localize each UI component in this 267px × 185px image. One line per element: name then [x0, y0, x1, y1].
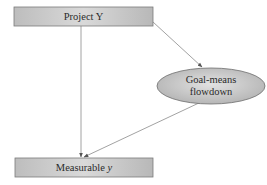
diagram-canvas: [0, 0, 267, 185]
node-project-box: [14, 7, 153, 26]
edge-project-to-flowdown: [153, 22, 202, 67]
node-measurable-box: [15, 158, 153, 177]
edge-flowdown-to-measurable: [84, 102, 201, 157]
node-flowdown-ellipse: [157, 68, 265, 104]
